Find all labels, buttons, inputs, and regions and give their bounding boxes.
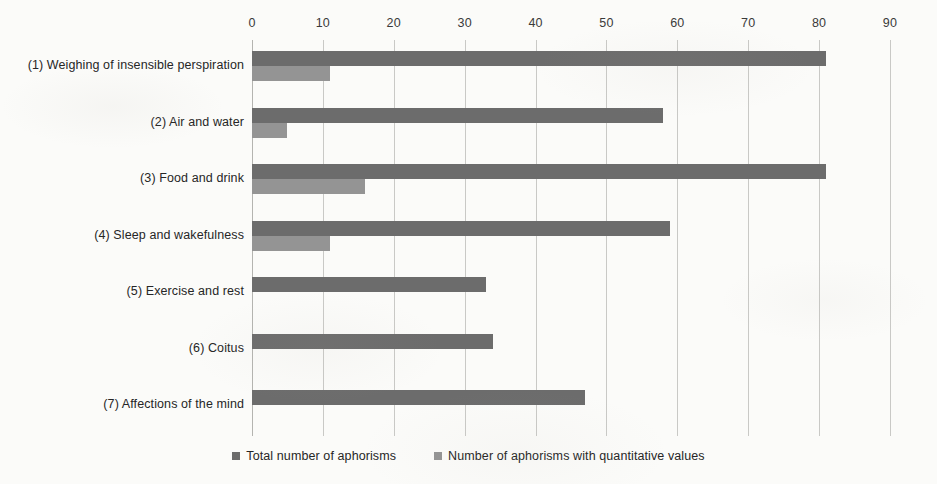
bar-quantitative-aphorisms	[252, 66, 330, 81]
bar-group	[252, 153, 890, 210]
bar-total-aphorisms	[252, 51, 826, 66]
legend-label: Total number of aphorisms	[246, 449, 396, 463]
x-tick-label: 70	[741, 16, 755, 30]
bar-total-aphorisms	[252, 221, 670, 236]
bar-total-aphorisms	[252, 108, 663, 123]
y-axis-category-labels: (1) Weighing of insensible perspiration(…	[0, 40, 244, 436]
x-tick-label: 10	[316, 16, 330, 30]
bar-group	[252, 40, 890, 97]
bar-quantitative-aphorisms	[252, 236, 330, 251]
legend-label: Number of aphorisms with quantitative va…	[448, 449, 705, 463]
x-tick-label: 20	[387, 16, 401, 30]
legend-swatch-icon	[232, 452, 240, 460]
category-label: (3) Food and drink	[0, 171, 244, 186]
bar-total-aphorisms	[252, 334, 493, 349]
chart-legend: Total number of aphorismsNumber of aphor…	[0, 449, 937, 463]
bar-group	[252, 210, 890, 267]
x-tick-label: 30	[458, 16, 472, 30]
category-label: (6) Coitus	[0, 341, 244, 356]
legend-item[interactable]: Number of aphorisms with quantitative va…	[434, 449, 705, 463]
category-label: (1) Weighing of insensible perspiration	[0, 58, 244, 73]
x-tick-label: 0	[248, 16, 255, 30]
bar-group	[252, 379, 890, 436]
x-tick-label: 40	[528, 16, 542, 30]
bar-quantitative-aphorisms	[252, 179, 365, 194]
x-tick-label: 60	[670, 16, 684, 30]
legend-swatch-icon	[434, 452, 442, 460]
bar-total-aphorisms	[252, 390, 585, 405]
gridline	[890, 40, 891, 436]
plot-area	[252, 40, 890, 436]
x-axis-tick-labels: 0102030405060708090	[0, 16, 937, 32]
x-tick-label: 80	[812, 16, 826, 30]
bar-group	[252, 266, 890, 323]
bar-total-aphorisms	[252, 277, 486, 292]
category-label: (2) Air and water	[0, 115, 244, 130]
bar-total-aphorisms	[252, 164, 826, 179]
category-label: (5) Exercise and rest	[0, 284, 244, 299]
category-label: (4) Sleep and wakefulness	[0, 228, 244, 243]
bar-group	[252, 323, 890, 380]
bar-group	[252, 97, 890, 154]
x-tick-label: 90	[883, 16, 897, 30]
bar-quantitative-aphorisms	[252, 123, 287, 138]
horizontal-bar-chart: 0102030405060708090 (1) Weighing of inse…	[0, 0, 937, 484]
category-label: (7) Affections of the mind	[0, 397, 244, 412]
bar-rows	[252, 40, 890, 436]
x-tick-label: 50	[599, 16, 613, 30]
legend-item[interactable]: Total number of aphorisms	[232, 449, 396, 463]
